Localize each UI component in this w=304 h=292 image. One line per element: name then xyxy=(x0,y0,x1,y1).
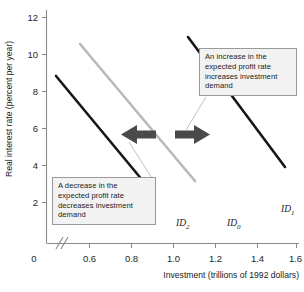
increase-callout-leader xyxy=(186,97,206,130)
x-tick-label-1.0: 1.0 xyxy=(167,253,180,264)
increase-callout-line-2: expected profit rate xyxy=(205,62,292,72)
x-tick-label-0.8: 0.8 xyxy=(125,253,138,264)
increase-callout-line-1: An increase in the xyxy=(205,52,292,62)
increase-callout-line-4: demand xyxy=(205,81,292,91)
increase-callout: An increase in the expected profit rate … xyxy=(199,48,297,96)
decrease-callout-leader xyxy=(129,142,153,180)
curve-label-id0: ID0 xyxy=(226,218,241,231)
shift-right-arrow xyxy=(175,125,210,144)
x-tick-label-1.4: 1.4 xyxy=(251,253,264,264)
y-tick-label-10: 10 xyxy=(27,49,38,60)
decrease-callout: A decrease in the expected profit rate d… xyxy=(52,177,156,225)
decrease-callout-line-3: decreases investment xyxy=(58,201,151,211)
curve-label-id1: ID1 xyxy=(280,204,295,217)
decrease-callout-line-1: A decrease in the xyxy=(58,181,151,191)
y-axis-ticks xyxy=(42,18,47,203)
x-axis-ticks xyxy=(90,244,297,249)
y-tick-label-2: 2 xyxy=(33,197,38,208)
y-axis-title: Real interest rate (percent per year) xyxy=(4,41,14,177)
x-tick-label-1.2: 1.2 xyxy=(209,253,222,264)
y-tick-label-6: 6 xyxy=(33,123,38,134)
decrease-callout-line-4: demand xyxy=(58,210,151,220)
increase-callout-line-3: increases investment xyxy=(205,72,292,82)
x-tick-label-0: 0 xyxy=(31,253,36,264)
y-tick-label-12: 12 xyxy=(27,12,38,23)
x-tick-label-1.6: 1.6 xyxy=(289,253,302,264)
x-axis-title: Investment (trillions of 1992 dollars) xyxy=(163,270,299,280)
x-tick-label-0.6: 0.6 xyxy=(83,253,96,264)
y-tick-label-8: 8 xyxy=(33,86,38,97)
curve-id0 xyxy=(80,44,195,181)
curve-label-id2: ID2 xyxy=(175,218,190,231)
y-tick-label-4: 4 xyxy=(33,160,38,171)
decrease-callout-line-2: expected profit rate xyxy=(58,191,151,201)
chart-canvas: 12 10 8 6 4 2 Real interest rate (percen… xyxy=(0,0,304,292)
investment-demand-chart: 12 10 8 6 4 2 Real interest rate (percen… xyxy=(0,0,304,292)
